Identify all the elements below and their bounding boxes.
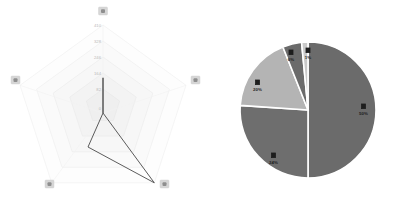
radar-axis-label-bottom-left[interactable]: [45, 180, 54, 188]
charts-canvas: 410 328 246 164 82 0: [0, 0, 411, 204]
radar-axis-label-top[interactable]: [99, 7, 108, 15]
radar-axis-label-right[interactable]: [191, 76, 200, 84]
radar-tick-164: 164: [94, 71, 102, 76]
radar-tick-246: 246: [94, 55, 102, 60]
radar-chart-panel: 410 328 246 164 82 0: [0, 0, 206, 204]
pie-percent-4: 6%: [288, 57, 294, 62]
radar-tick-328: 328: [94, 39, 102, 44]
pie-percent-1: 50%: [359, 111, 368, 116]
radar-tick-82: 82: [96, 87, 101, 92]
pie-slice-2[interactable]: [240, 105, 308, 178]
radar-axis-label-left[interactable]: [11, 76, 20, 84]
pie-chart-panel: 50% 24% 20% 6% 1%: [206, 0, 411, 204]
radar-axis-label-bottom-right[interactable]: [160, 180, 169, 188]
radar-tick-410: 410: [94, 23, 102, 28]
pie-slices: [240, 42, 376, 178]
pie-chart: 50% 24% 20% 6% 1%: [206, 0, 411, 204]
pie-percent-3: 20%: [253, 87, 262, 92]
pie-percent-5: 1%: [305, 55, 311, 60]
radar-chart: 410 328 246 164 82 0: [0, 0, 206, 204]
pie-slice-1[interactable]: [308, 42, 376, 178]
pie-percent-2: 24%: [269, 160, 278, 165]
